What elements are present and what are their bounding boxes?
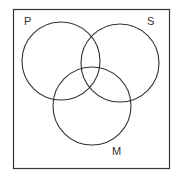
label-p: P xyxy=(24,16,31,27)
circle-s xyxy=(81,24,159,102)
label-s: S xyxy=(147,16,154,27)
circle-m xyxy=(53,67,131,145)
circle-p xyxy=(22,22,100,100)
label-m: M xyxy=(112,146,121,157)
